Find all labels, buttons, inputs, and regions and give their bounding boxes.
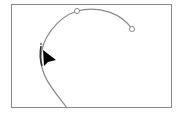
path-drawing-canvas[interactable] bbox=[0, 0, 180, 117]
arrow-cursor-icon bbox=[43, 50, 56, 66]
selected-anchor-point[interactable] bbox=[40, 43, 42, 45]
anchor-point-top[interactable] bbox=[75, 9, 80, 14]
bezier-path[interactable] bbox=[41, 9, 132, 108]
anchor-point-end[interactable] bbox=[130, 27, 135, 32]
